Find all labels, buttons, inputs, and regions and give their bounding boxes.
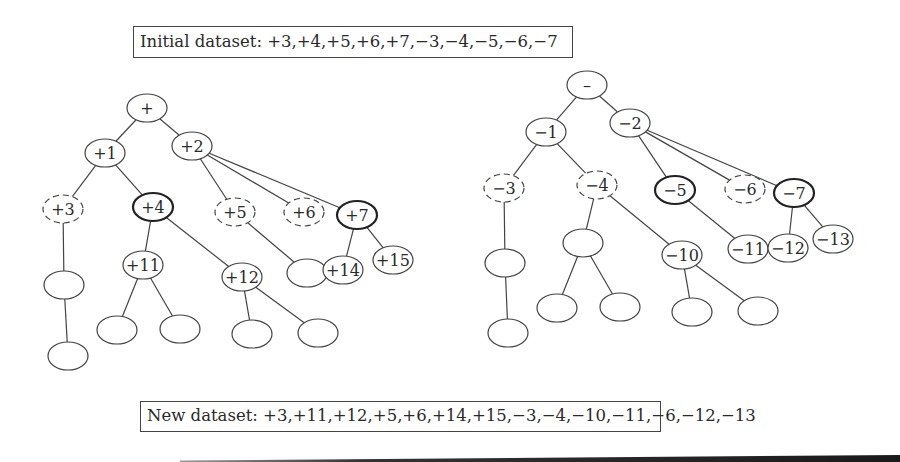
node-label: +14: [326, 261, 360, 280]
tree-edge: [248, 223, 295, 262]
tree-diagram: ++1+2+3+4+5+6+7+11+12+14+15–−1−2−3−4−5−6…: [0, 0, 900, 462]
node-label: +3: [51, 200, 75, 219]
tree-edge: [790, 207, 793, 234]
tree-node: –: [567, 71, 607, 99]
tree-edge: [347, 229, 354, 256]
tree-edge: [513, 144, 536, 175]
tree-edge: [256, 287, 304, 323]
tree-edge: [688, 201, 735, 239]
tree-node: −11: [728, 235, 768, 263]
tree-edge: [696, 265, 744, 301]
tree-node: +: [127, 94, 167, 122]
tree-node: −13: [813, 225, 853, 253]
tree-edge: [506, 277, 508, 319]
nodes-layer: ++1+2+3+4+5+6+7+11+12+14+15–−1−2−3−4−5−6…: [43, 71, 853, 370]
tree-node: −1: [526, 118, 566, 146]
node-label: +: [140, 99, 153, 118]
node-label: +5: [223, 203, 247, 222]
tree-edge: [200, 159, 226, 200]
node-ellipse: [44, 271, 84, 299]
node-label: −5: [663, 181, 687, 200]
node-label: −12: [771, 239, 805, 258]
tree-edge: [804, 205, 823, 227]
tree-node: +11: [123, 251, 163, 279]
tree-node-empty: [48, 342, 88, 370]
tree-node-empty: [298, 319, 338, 347]
node-ellipse: [298, 319, 338, 347]
tree-edge: [610, 196, 669, 245]
tree-node: +3: [43, 195, 83, 223]
tree-node: +4: [133, 193, 173, 221]
tree-node-empty: [160, 315, 200, 343]
node-ellipse: [672, 298, 712, 326]
tree-edge: [562, 256, 577, 294]
node-label: +2: [180, 137, 204, 156]
node-ellipse: [287, 259, 327, 287]
node-label: +7: [345, 206, 369, 225]
tree-node: +5: [215, 198, 255, 226]
tree-node-empty: [600, 293, 640, 321]
tree-node: −3: [484, 174, 524, 202]
node-ellipse: [488, 319, 528, 347]
tree-edge: [63, 223, 64, 271]
node-label: −11: [731, 240, 765, 259]
node-ellipse: [563, 229, 603, 257]
tree-node-empty: [738, 297, 778, 325]
node-label: +1: [93, 144, 117, 163]
tree-node: −10: [662, 241, 702, 269]
tree-edge: [586, 199, 593, 229]
tree-edge: [645, 132, 729, 180]
node-ellipse: [600, 293, 640, 321]
tree-node-empty: [537, 294, 577, 322]
tree-edge: [151, 278, 173, 316]
tree-node: +1: [85, 139, 125, 167]
node-ellipse: [485, 249, 525, 277]
tree-edge: [65, 299, 67, 342]
tree-node: +2: [172, 132, 212, 160]
node-label: −3: [492, 179, 516, 198]
tree-node: −4: [577, 171, 617, 199]
tree-node: +6: [284, 198, 324, 226]
tree-node-empty: [488, 319, 528, 347]
node-ellipse: [160, 315, 200, 343]
tree-node-empty: [563, 229, 603, 257]
node-label: −7: [782, 184, 806, 203]
node-label: +11: [126, 256, 160, 275]
new-dataset-text: New dataset: +3,+11,+12,+5,+6,+14,+15,−3…: [147, 408, 756, 425]
node-label: –: [583, 76, 591, 95]
node-label: −13: [816, 230, 850, 249]
tree-node: −6: [725, 175, 765, 203]
node-ellipse: [97, 316, 137, 344]
node-label: +12: [225, 268, 259, 287]
node-ellipse: [738, 297, 778, 325]
tree-node: +14: [323, 256, 363, 284]
node-label: −6: [733, 180, 757, 199]
tree-node: +7: [337, 201, 377, 229]
node-label: +15: [376, 251, 410, 270]
tree-edge: [116, 120, 136, 142]
node-label: −10: [665, 246, 699, 265]
tree-edge: [207, 155, 288, 203]
tree-edge: [166, 217, 228, 266]
tree-edge: [145, 221, 150, 251]
tree-edge: [557, 144, 586, 174]
tree-node-empty: [97, 316, 137, 344]
node-label: −1: [534, 123, 558, 142]
tree-edge: [684, 269, 689, 298]
node-ellipse: [537, 294, 577, 322]
tree-edge: [122, 278, 137, 316]
tree-node: +15: [373, 246, 413, 274]
tree-edge: [504, 202, 505, 249]
node-ellipse: [232, 320, 272, 348]
tree-node: −7: [774, 179, 814, 207]
node-label: +4: [141, 198, 165, 217]
tree-node-empty: [287, 259, 327, 287]
tree-node: −2: [610, 109, 650, 137]
node-label: −2: [618, 114, 642, 133]
tree-edge: [591, 256, 613, 294]
tree-edge: [367, 227, 383, 248]
tree-edge: [116, 165, 143, 195]
tree-edge: [599, 96, 617, 112]
tree-node: −5: [655, 176, 695, 204]
tree-node: +12: [222, 263, 262, 291]
